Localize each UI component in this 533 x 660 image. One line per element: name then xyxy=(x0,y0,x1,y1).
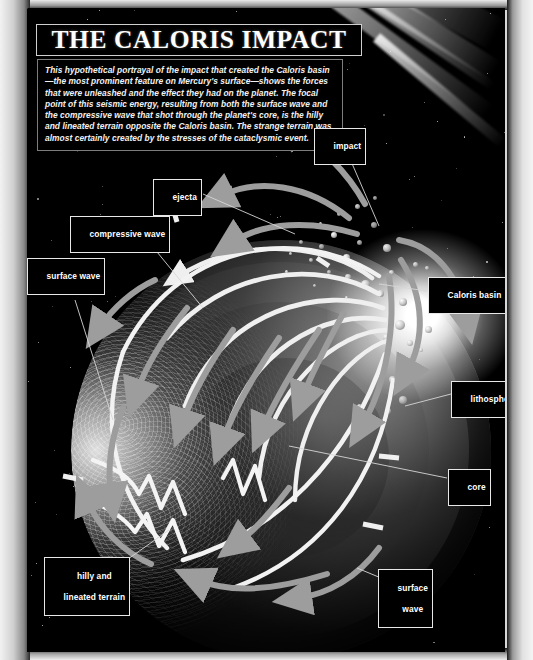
label-surface-wave-left: surface wave xyxy=(27,258,105,295)
label-impact: impact xyxy=(314,128,366,165)
leader-core xyxy=(289,446,447,478)
leader-caloris-basin xyxy=(379,284,427,291)
label-caloris-basin: Caloris basin xyxy=(428,277,505,314)
label-ejecta-text: ejecta xyxy=(173,192,197,202)
label-ejecta: ejecta xyxy=(153,179,202,216)
leader-ejecta xyxy=(203,194,295,234)
label-compressive-wave: compressive wave xyxy=(70,216,170,253)
label-lithosphere-text: lithosphere xyxy=(471,394,505,404)
page-edge-right xyxy=(507,0,533,660)
force-arrows xyxy=(87,130,467,598)
figure-page: THE CALORIS IMPACT This hypothetical por… xyxy=(0,0,533,660)
artwork-plate: THE CALORIS IMPACT This hypothetical por… xyxy=(27,8,505,652)
figure-caption-text: This hypothetical portrayal of the impac… xyxy=(45,65,335,144)
label-core: core xyxy=(448,469,491,506)
label-surface-wave-right-line2: wave xyxy=(402,604,423,614)
label-surface-wave-right-line1: surface xyxy=(398,583,429,593)
figure-caption: This hypothetical portrayal of the impac… xyxy=(37,59,343,151)
page-edge-left xyxy=(0,0,30,660)
label-compressive-wave-text: compressive wave xyxy=(90,229,166,239)
figure-title-text: THE CALORIS IMPACT xyxy=(37,25,361,55)
label-surface-wave-right: surface wave xyxy=(378,569,433,628)
compressive-wave-arcs xyxy=(167,249,389,500)
label-impact-text: impact xyxy=(334,141,362,151)
label-caloris-basin-text: Caloris basin xyxy=(448,290,502,300)
figure-title: THE CALORIS IMPACT xyxy=(36,24,362,56)
label-hilly-line2: lineated terrain xyxy=(64,592,126,602)
label-core-text: core xyxy=(468,482,486,492)
label-hilly-line1: hilly and xyxy=(77,571,112,581)
label-hilly-lineated-terrain: hilly and lineated terrain xyxy=(44,557,130,616)
leader-lithosphere xyxy=(405,394,451,406)
label-surface-wave-left-text: surface wave xyxy=(47,271,101,281)
label-lithosphere: lithosphere xyxy=(451,381,505,418)
